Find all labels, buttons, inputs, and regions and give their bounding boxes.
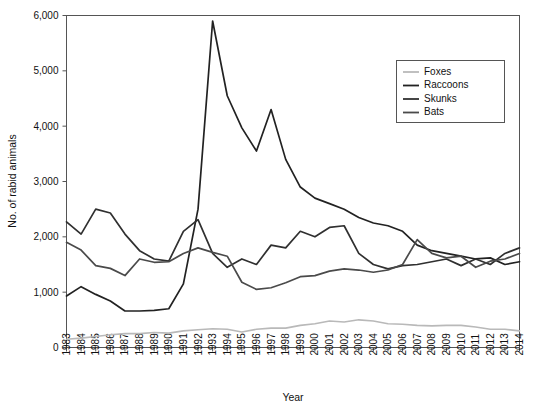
y-axis-title: No. of rabid animals bbox=[6, 134, 18, 227]
x-tick-label: 2013 bbox=[499, 333, 510, 356]
y-tick-label: 0 bbox=[53, 342, 59, 353]
x-tick-label: 1997 bbox=[266, 333, 277, 356]
x-tick-label: 1988 bbox=[134, 333, 145, 356]
x-axis-title: Year bbox=[282, 391, 304, 403]
legend-label-foxes: Foxes bbox=[424, 66, 451, 77]
y-tick-label: 6,000 bbox=[33, 10, 58, 21]
x-tick-label: 1998 bbox=[280, 333, 291, 356]
series-line-skunks bbox=[67, 209, 520, 269]
legend-label-bats: Bats bbox=[424, 106, 444, 117]
x-tick-label: 2011 bbox=[470, 334, 481, 356]
y-tick-label: 3,000 bbox=[33, 176, 58, 187]
x-tick-label: 1999 bbox=[295, 333, 306, 356]
legend: FoxesRaccoonsSkunksBats bbox=[397, 61, 505, 123]
y-tick-label: 1,000 bbox=[33, 287, 58, 298]
y-tick-label: 5,000 bbox=[33, 65, 58, 76]
x-tick-label: 1993 bbox=[207, 333, 218, 356]
x-tick-label: 1990 bbox=[163, 333, 174, 356]
y-axis-ticks: 01,0002,0003,0004,0005,0006,000 bbox=[33, 10, 66, 353]
x-tick-label: 1992 bbox=[193, 333, 204, 356]
x-tick-label: 1983 bbox=[61, 333, 72, 356]
legend-label-skunks: Skunks bbox=[424, 93, 457, 104]
x-tick-label: 2007 bbox=[412, 333, 423, 356]
x-tick-label: 2008 bbox=[426, 333, 437, 356]
x-tick-label: 2004 bbox=[368, 333, 379, 356]
x-tick-label: 1984 bbox=[76, 333, 87, 356]
x-tick-label: 2003 bbox=[353, 333, 364, 356]
x-tick-label: 2009 bbox=[441, 333, 452, 356]
x-tick-label: 1996 bbox=[251, 333, 262, 356]
x-tick-label: 1986 bbox=[105, 333, 116, 356]
legend-label-raccoons: Raccoons bbox=[424, 79, 468, 90]
x-tick-label: 1991 bbox=[178, 333, 189, 356]
y-tick-label: 4,000 bbox=[33, 121, 58, 132]
x-tick-label: 1987 bbox=[119, 333, 130, 356]
chart-canvas: 01,0002,0003,0004,0005,0006,000 19831984… bbox=[0, 0, 544, 420]
x-tick-label: 2005 bbox=[382, 333, 393, 356]
rabid-animals-chart: 01,0002,0003,0004,0005,0006,000 19831984… bbox=[0, 0, 544, 420]
x-tick-label: 1989 bbox=[149, 333, 160, 356]
x-tick-label: 2006 bbox=[397, 333, 408, 356]
x-tick-label: 2001 bbox=[324, 333, 335, 356]
x-tick-label: 2000 bbox=[309, 333, 320, 356]
x-tick-label: 2010 bbox=[456, 333, 467, 356]
series-line-bats bbox=[67, 240, 520, 290]
y-tick-label: 2,000 bbox=[33, 231, 58, 242]
x-tick-label: 2014 bbox=[514, 333, 525, 356]
x-tick-label: 2012 bbox=[485, 333, 496, 356]
x-tick-label: 1995 bbox=[236, 333, 247, 356]
x-tick-label: 1994 bbox=[222, 333, 233, 356]
x-axis-ticks: 1983198419851986198719881989199019911992… bbox=[61, 333, 525, 356]
x-tick-label: 2002 bbox=[339, 333, 350, 356]
